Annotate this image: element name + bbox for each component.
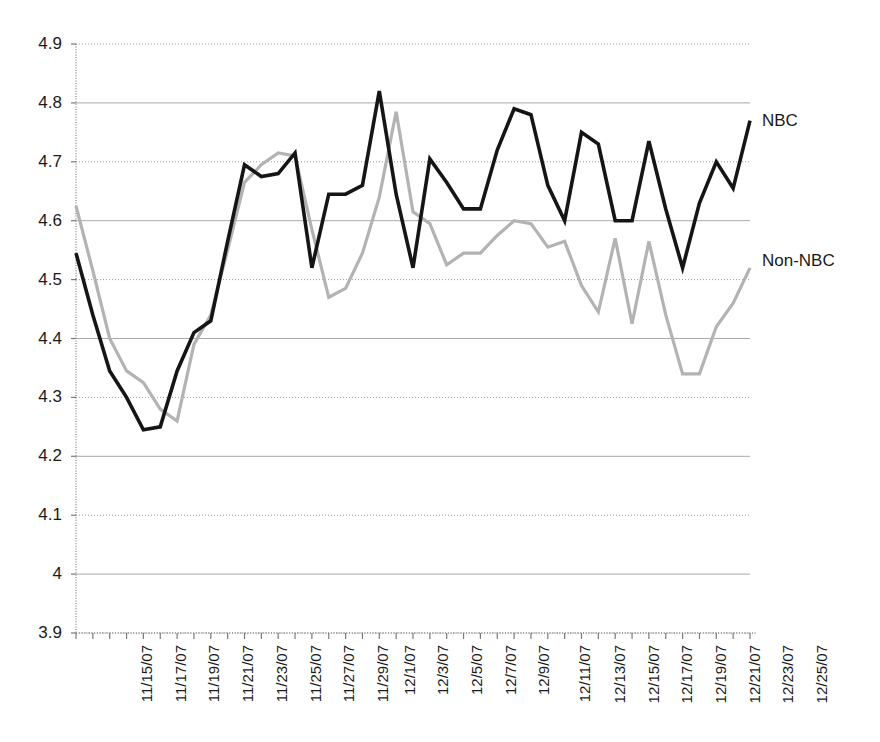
x-tick-label: 12/9/07 [536,645,551,695]
x-tick-label: 12/3/07 [435,645,450,695]
x-tick-label: 12/13/07 [612,645,627,703]
series-line-nbc [76,91,750,430]
y-tick-label: 4.8 [16,94,62,111]
x-tick-label: 11/29/07 [375,645,390,702]
y-tick-label: 4.5 [16,271,62,288]
x-tick-label: 11/25/07 [308,645,323,702]
y-tick-label: 4 [16,565,62,582]
y-axis [71,44,76,633]
x-tick-label: 12/15/07 [646,645,661,703]
x-tick-label: 12/21/07 [747,645,762,703]
x-tick-label: 12/11/07 [577,645,592,702]
y-tick-label: 4.6 [16,212,62,229]
series-label-nbc: NBC [762,112,798,129]
line-chart: 3.944.14.24.34.44.54.64.74.84.9 11/15/07… [0,0,880,742]
x-tick-label: 11/23/07 [274,645,289,702]
y-tick-label: 4.3 [16,388,62,405]
x-tick-label: 12/7/07 [503,645,518,695]
y-tick-label: 4.4 [16,330,62,347]
y-tick-label: 4.7 [16,153,62,170]
gridlines [76,44,750,633]
y-tick-label: 4.1 [16,506,62,523]
series-lines [76,91,750,430]
y-tick-label: 4.9 [16,35,62,52]
x-tick-label: 11/21/07 [240,645,255,702]
x-tick-label: 11/19/07 [207,645,222,702]
x-tick-label: 11/27/07 [341,645,356,702]
x-tick-label: 12/23/07 [781,645,796,703]
plot-area [0,0,880,742]
x-tick-label: 11/17/07 [173,645,188,702]
x-tick-label: 12/1/07 [402,645,417,695]
y-tick-label: 3.9 [16,624,62,641]
x-tick-label: 12/25/07 [814,645,829,703]
x-tick-label: 12/5/07 [469,645,484,695]
series-label-non-nbc: Non-NBC [762,252,835,269]
x-tick-label: 11/15/07 [139,645,154,702]
y-tick-label: 4.2 [16,447,62,464]
x-tick-label: 12/19/07 [713,645,728,703]
x-axis [76,633,756,639]
x-tick-label: 12/17/07 [680,645,695,703]
